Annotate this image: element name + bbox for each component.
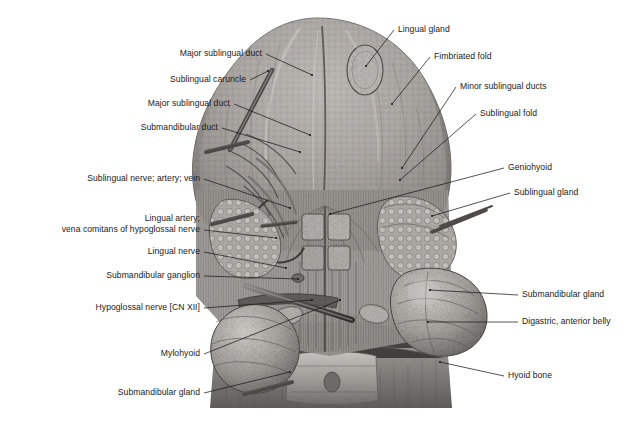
label-submandibular-gland-left: Submandibular gland: [118, 387, 200, 398]
label-lingual-artery-vena-comitans-line2: vena comitans of hypoglossal nerve: [62, 224, 200, 235]
label-sublingual-fold: Sublingual fold: [480, 108, 537, 119]
label-lingual-gland: Lingual gland: [398, 24, 450, 35]
label-submandibular-gland-right: Submandibular gland: [522, 289, 604, 300]
submandibular-gland-mass-left: [211, 305, 300, 394]
label-sublingual-nerve-artery-vein: Sublingual nerve; artery; vein: [87, 173, 200, 184]
label-submandibular-duct: Submandibular duct: [141, 122, 218, 133]
anatomy-illustration: [0, 0, 638, 434]
label-hyoid-bone: Hyoid bone: [508, 370, 552, 381]
label-geniohyoid: Geniohyoid: [508, 162, 552, 173]
label-lingual-artery-vena-comitans-line1: Lingual artery;: [145, 213, 200, 224]
lingual-gland-oval: [347, 45, 383, 95]
label-mylohyoid: Mylohyoid: [161, 348, 200, 359]
hyoid-bone-body: [286, 352, 378, 405]
label-hypoglossal-nerve-cn-xii: Hypoglossal nerve [CN XII]: [96, 302, 200, 313]
label-minor-sublingual-ducts: Minor sublingual ducts: [460, 81, 547, 92]
label-lingual-nerve: Lingual nerve: [148, 246, 200, 257]
anatomical-figure: Major sublingual ductSublingual caruncle…: [0, 0, 638, 434]
label-digastric-anterior-belly: Digastric, anterior belly: [522, 316, 611, 327]
label-major-sublingual-duct-upper: Major sublingual duct: [180, 48, 262, 59]
label-sublingual-gland-right: Sublingual gland: [514, 187, 578, 198]
label-sublingual-caruncle: Sublingual caruncle: [170, 74, 246, 85]
label-fimbriated-fold: Fimbriated fold: [434, 51, 492, 62]
label-major-sublingual-duct-lower: Major sublingual duct: [148, 98, 230, 109]
label-submandibular-ganglion: Submandibular ganglion: [106, 270, 200, 281]
